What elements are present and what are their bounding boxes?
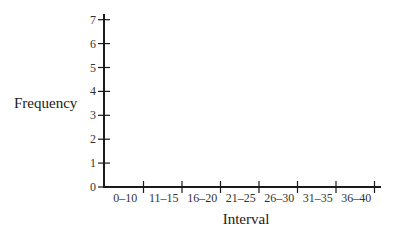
chart: 01234567 0–1011–1516–2021–2526–3031–3536… <box>0 0 398 239</box>
y-tick-label: 6 <box>90 37 96 51</box>
x-category-label: 0–10 <box>113 191 137 205</box>
y-tick-label: 5 <box>90 61 96 75</box>
y-tick-label: 1 <box>90 156 96 170</box>
y-tick-label: 4 <box>90 84 96 98</box>
y-axis: 01234567 <box>90 13 110 194</box>
x-category-label: 36–40 <box>341 191 371 205</box>
x-category-label: 26–30 <box>264 191 294 205</box>
x-axis-title: Interval <box>223 211 270 227</box>
y-axis-title: Frequency <box>14 95 78 111</box>
x-axis: 0–1011–1516–2021–2526–3031–3536–40 <box>103 181 381 205</box>
x-category-label: 16–20 <box>187 191 217 205</box>
y-tick-label: 7 <box>90 13 96 27</box>
x-category-label: 11–15 <box>149 191 179 205</box>
x-category-label: 21–25 <box>226 191 256 205</box>
y-tick-label: 0 <box>90 180 96 194</box>
x-category-label: 31–35 <box>303 191 333 205</box>
y-tick-label: 3 <box>90 108 96 122</box>
y-tick-label: 2 <box>90 132 96 146</box>
